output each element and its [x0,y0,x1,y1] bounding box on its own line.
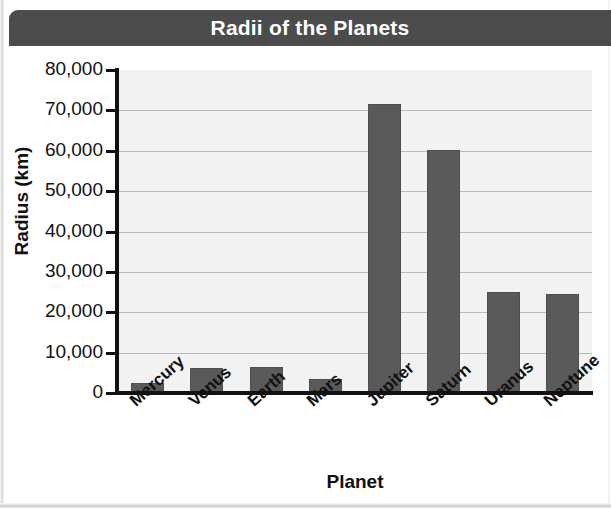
gridline [118,272,592,273]
y-axis-tick [106,392,116,395]
plot-area [118,70,592,393]
gridline [118,312,592,313]
gridline [118,232,592,233]
y-axis-tick [106,311,116,314]
chart-figure: Radii of the Planets 80,00070,00060,0005… [0,0,611,508]
gridline [118,110,592,111]
chart-title: Radii of the Planets [211,16,410,40]
y-axis-tick [106,231,116,234]
y-axis-tick [106,352,116,355]
y-axis-tick-label: 10,000 [0,341,103,363]
y-axis-tick-label: 20,000 [0,300,103,322]
y-axis-tick [106,69,116,72]
x-axis-title: Planet [118,471,592,493]
gridline [118,191,592,192]
y-axis-tick [106,150,116,153]
y-axis-tick-label: 0 [0,381,103,403]
gridline [118,353,592,354]
y-axis-tick-label: 80,000 [0,58,103,80]
y-axis-tick [106,190,116,193]
y-axis-tick [106,109,116,112]
y-axis-title: Radius (km) [11,121,33,281]
bar-saturn [427,150,460,393]
bar-jupiter [368,104,401,393]
x-axis-tick-labels: MercuryVenusEarthMarsJupiterSaturnUranus… [118,396,592,466]
y-axis-tick-label: 70,000 [0,98,103,120]
y-axis-tick [106,271,116,274]
gridline [118,151,592,152]
